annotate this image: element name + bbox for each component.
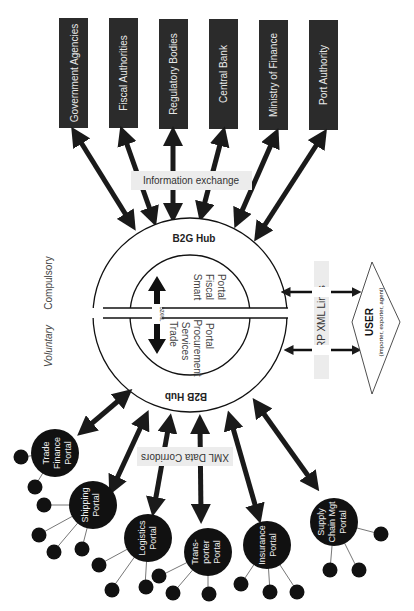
box-fiscal-authorities: Fiscal Authorities xyxy=(109,18,138,128)
portal-label: Supply xyxy=(316,508,326,536)
portal-supply-chain: Supply Chain Mgt Portal xyxy=(310,498,358,546)
portal-label: Portal xyxy=(63,441,73,465)
smart-fiscal-portal: Smart Fiscal Portal xyxy=(192,274,227,301)
box-label: Fiscal Authorities xyxy=(118,35,129,111)
info-exchange-text: Information exchange xyxy=(143,175,240,186)
portal-label: Portal xyxy=(91,493,101,517)
trade-services-line: Portal xyxy=(204,323,215,349)
trade-services-line: Trade xyxy=(168,321,179,347)
compulsory-label: Compulsory xyxy=(43,256,54,309)
xml-corridors-label: XML Data Corridors xyxy=(137,447,233,466)
portal-label: Finance xyxy=(52,437,62,469)
smart-fiscal-line: Fiscal xyxy=(204,274,215,300)
box-label: Central Bank xyxy=(218,44,229,103)
info-exchange-label: Information exchange xyxy=(131,171,252,190)
portal-label: Portal xyxy=(212,540,222,564)
government-boxes: Government Agencies Fiscal Authorities R… xyxy=(59,18,338,130)
portal-label: Trans- xyxy=(190,539,200,565)
b2xml-label: B2XML xyxy=(159,307,164,322)
portal-insurance: Insurance Portal xyxy=(243,521,291,569)
user-node: USER (importer, exporter, agent) xyxy=(352,262,400,394)
erp-links: ERP XML Links xyxy=(286,261,357,379)
portal-label: Portal xyxy=(338,510,348,534)
box-regulatory-bodies: Regulatory Bodies xyxy=(159,19,188,129)
xml-corridors-text: XML Data Corridors xyxy=(141,452,229,463)
portal-transporter: Trans- porter Portal xyxy=(184,528,232,576)
box-government-agencies: Government Agencies xyxy=(59,18,88,128)
portal-trade-finance: Trade Finance Portal xyxy=(31,429,79,477)
portal-logistics: Logistics Portal xyxy=(124,514,172,562)
user-title: USER xyxy=(364,307,375,336)
hub: B2G Hub B2B Hub B2XML Smart Fiscal Porta… xyxy=(92,218,288,412)
box-label: Ministry of Finance xyxy=(268,33,279,117)
box-central-bank: Central Bank xyxy=(209,19,238,129)
portal-shipping: Shipping Portal xyxy=(69,481,117,529)
portal-label: Logistics xyxy=(137,520,147,556)
portal-label: Shipping xyxy=(80,487,90,522)
portal-label: Portal xyxy=(268,533,278,557)
trade-hub-diagram: Government Agencies Fiscal Authorities R… xyxy=(0,0,414,611)
portal-label: Portal xyxy=(148,526,158,550)
box-label: Port Authority xyxy=(318,45,329,105)
portal-label: porter xyxy=(201,540,211,564)
smart-fiscal-line: Portal xyxy=(216,274,227,300)
portal-label: Trade xyxy=(41,441,51,464)
portal-label: Chain Mgt xyxy=(327,501,337,543)
trade-services-line: Services xyxy=(180,322,191,360)
user-subtitle: (importer, exporter, agent) xyxy=(378,287,384,356)
trade-services-line: Procurement xyxy=(192,319,203,376)
voluntary-label: Voluntary xyxy=(43,324,54,367)
b2b-hub-label: B2B Hub xyxy=(165,391,207,402)
box-ministry-of-finance: Ministry of Finance xyxy=(259,20,288,130)
portal-label: Insurance xyxy=(257,525,267,565)
b2g-hub-label: B2G Hub xyxy=(173,233,216,244)
smart-fiscal-line: Smart xyxy=(192,274,203,301)
box-port-authority: Port Authority xyxy=(309,20,338,130)
box-label: Government Agencies xyxy=(69,24,80,122)
box-label: Regulatory Bodies xyxy=(168,33,179,115)
